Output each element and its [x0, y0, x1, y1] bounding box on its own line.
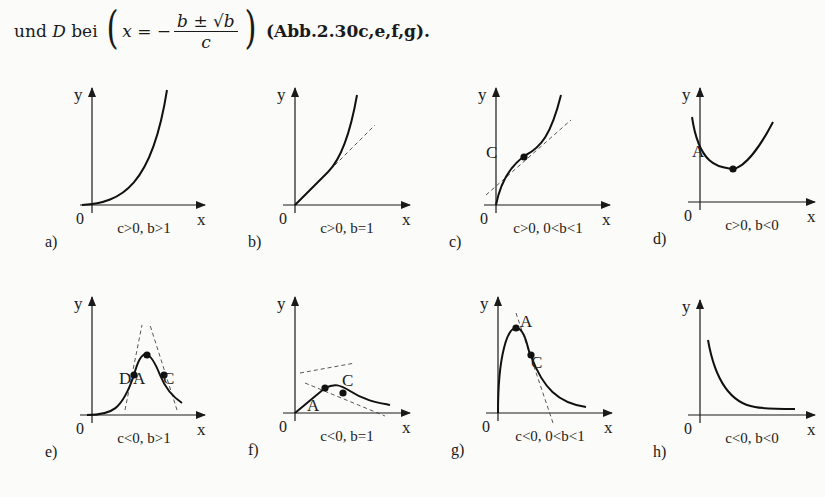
- tangent-line: [150, 325, 177, 410]
- panel-f: yx0c<0, b=1f)AC: [248, 294, 411, 459]
- panel-caption: c>0, b<0: [725, 217, 779, 233]
- x-axis-label: x: [807, 420, 816, 439]
- origin-label: 0: [684, 420, 692, 437]
- panel-caption: c>0, b=1: [320, 220, 374, 236]
- point-label-c: C: [531, 353, 542, 372]
- tangent-line: [125, 325, 142, 410]
- x-axis-label: x: [402, 210, 411, 229]
- curve-point: [729, 165, 736, 172]
- panel-d: yx0c>0, b<0d)A: [653, 85, 816, 248]
- origin-label: 0: [684, 207, 692, 224]
- origin-label: 0: [480, 210, 488, 227]
- tangent-line: [486, 120, 571, 195]
- origin-label: 0: [279, 418, 287, 435]
- origin-label: 0: [279, 210, 287, 227]
- point-label-c: C: [163, 369, 174, 388]
- curve-point: [339, 389, 346, 396]
- curve-point: [512, 324, 519, 331]
- panel-label: h): [653, 443, 666, 461]
- panel-caption: c>0, b>1: [117, 220, 171, 236]
- y-axis-label: y: [480, 294, 489, 313]
- function-curve: [295, 95, 357, 205]
- panel-label: c): [449, 233, 461, 251]
- y-axis-label: y: [682, 297, 691, 316]
- panel-g: yx0c<0, 0<b<1g)AC: [451, 294, 613, 459]
- y-axis-label: y: [74, 85, 83, 104]
- panel-caption: c<0, 0<b<1: [515, 428, 585, 444]
- panel-caption: c<0, b<0: [725, 430, 779, 446]
- figure-2-30: yx0c>0, b>1a)yx0c>0, b=1b)yx0c>0, 0<b<1c…: [0, 0, 825, 497]
- point-label-a: A: [520, 312, 533, 331]
- panel-label: g): [451, 441, 464, 459]
- point-label-c: C: [486, 143, 497, 162]
- origin-label: 0: [76, 210, 84, 227]
- panel-caption: c<0, b>1: [117, 430, 171, 446]
- panel-label: e): [45, 443, 57, 461]
- panel-label: a): [45, 233, 57, 251]
- origin-label: 0: [482, 418, 490, 435]
- panel-label: d): [653, 230, 666, 248]
- function-curve: [82, 90, 167, 205]
- y-axis-label: y: [277, 85, 286, 104]
- panel-e: yx0c<0, b>1e)DAC: [45, 294, 206, 461]
- panel-h: yx0c<0, b<0h): [653, 297, 816, 461]
- curve-point: [143, 351, 150, 358]
- y-axis-label: y: [277, 294, 286, 313]
- curve-point: [520, 153, 527, 160]
- y-axis-label: y: [478, 85, 487, 104]
- function-curve: [708, 340, 795, 409]
- x-axis-label: x: [602, 210, 611, 229]
- point-label-a: A: [307, 396, 320, 415]
- panel-label: f): [248, 441, 259, 459]
- origin-label: 0: [76, 420, 84, 437]
- point-label-c: C: [342, 371, 353, 390]
- point-label-a: A: [133, 369, 146, 388]
- point-label-d: D: [119, 369, 131, 388]
- curve-point: [321, 384, 328, 391]
- y-axis-label: y: [682, 85, 691, 104]
- panel-caption: c>0, 0<b<1: [513, 220, 583, 236]
- x-axis-label: x: [604, 418, 613, 437]
- panel-caption: c<0, b=1: [320, 428, 374, 444]
- panel-label: b): [248, 233, 261, 251]
- x-axis-label: x: [197, 420, 206, 439]
- panel-b: yx0c>0, b=1b): [248, 85, 411, 251]
- x-axis-label: x: [402, 418, 411, 437]
- x-axis-label: x: [197, 210, 206, 229]
- x-axis-label: x: [807, 207, 816, 226]
- y-axis-label: y: [74, 294, 83, 313]
- point-label-a: A: [692, 142, 705, 161]
- panel-c: yx0c>0, 0<b<1c)C: [449, 85, 611, 251]
- function-curve: [496, 95, 561, 205]
- panel-a: yx0c>0, b>1a): [45, 85, 206, 251]
